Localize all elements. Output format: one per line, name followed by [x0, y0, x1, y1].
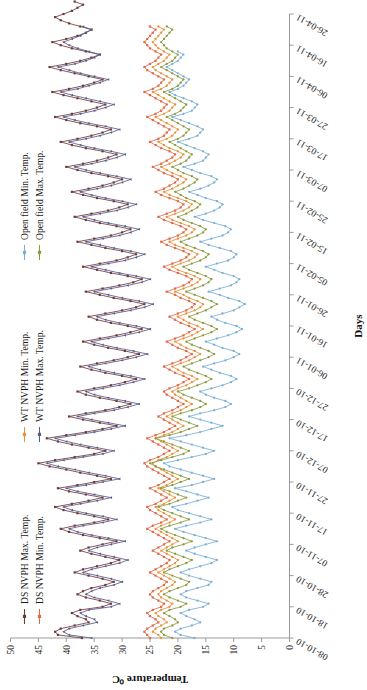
data-point	[51, 41, 53, 43]
data-point	[59, 141, 61, 143]
data-point	[171, 390, 173, 392]
legend-label: WT NVPH Max. Temp.	[33, 330, 44, 422]
data-point	[157, 415, 159, 417]
data-point	[160, 596, 162, 598]
data-point	[154, 437, 156, 439]
data-point	[173, 631, 175, 633]
data-point	[157, 25, 159, 27]
data-point	[165, 291, 167, 293]
data-point	[162, 266, 164, 268]
legend-swatch-marker	[37, 433, 40, 436]
data-point	[179, 612, 181, 614]
data-point	[67, 528, 70, 531]
data-point	[160, 66, 162, 68]
data-point	[157, 615, 159, 617]
legend-item[interactable]: WT NVPH Max. Temp.	[33, 330, 44, 442]
data-point	[165, 131, 167, 133]
legend-swatch-marker	[22, 251, 25, 254]
data-point	[154, 191, 156, 193]
data-point	[157, 509, 159, 511]
data-point	[193, 216, 195, 218]
data-point	[54, 631, 56, 633]
data-point	[173, 487, 175, 489]
data-point	[165, 35, 167, 37]
data-point	[73, 571, 75, 573]
data-point	[201, 365, 203, 367]
data-point	[157, 571, 159, 573]
data-point	[157, 57, 159, 59]
legend-item[interactable]: Open field Max. Temp.	[33, 151, 44, 260]
data-point	[182, 266, 184, 268]
data-point	[171, 106, 173, 108]
legend-item[interactable]: DS NVPH Min. Temp.	[33, 516, 44, 624]
series-line	[38, 2, 144, 638]
data-point	[157, 47, 159, 49]
data-point	[146, 44, 148, 46]
data-point	[56, 634, 58, 636]
data-point	[171, 415, 173, 417]
data-point	[160, 528, 162, 530]
x-tick-label: 27-11-10	[294, 480, 329, 506]
data-point	[187, 315, 189, 317]
data-point	[154, 38, 156, 40]
x-tick-label: 07-12-10	[294, 449, 329, 475]
y-tick-label: 0	[284, 645, 294, 650]
data-point	[185, 81, 187, 83]
data-point	[148, 462, 150, 464]
x-tick-label: 17-12-10	[294, 418, 329, 444]
data-point	[173, 291, 175, 293]
data-point	[65, 166, 67, 168]
legend-label: WT NVPH Min. Temp.	[18, 332, 29, 422]
legend-item[interactable]: Open field Min. Temp.	[18, 152, 29, 260]
data-point	[165, 25, 167, 27]
data-point	[157, 487, 159, 489]
y-tick-label: 40	[61, 645, 71, 655]
data-point	[168, 91, 170, 93]
data-point	[176, 315, 178, 317]
data-point	[162, 365, 164, 367]
data-point	[76, 593, 78, 595]
data-point	[148, 25, 150, 27]
data-point	[185, 131, 187, 133]
data-point	[165, 216, 167, 218]
x-tick-label: 27-03-11	[294, 106, 329, 132]
data-point	[76, 390, 78, 392]
y-tick-label: 35	[89, 645, 99, 655]
legend-item[interactable]: WT NVPH Min. Temp.	[18, 332, 29, 442]
data-point	[59, 528, 61, 530]
x-tick-label: 07-11-10	[294, 543, 329, 569]
data-point	[210, 315, 212, 317]
series-line	[150, 26, 217, 638]
data-point	[160, 549, 162, 551]
legend-label: DS NVPH Max. Temp.	[18, 515, 29, 605]
data-point	[148, 487, 150, 489]
x-tick-label: 07-03-11	[294, 168, 329, 194]
x-tick-label: 08-10-10	[294, 636, 329, 662]
data-point	[171, 116, 173, 118]
x-tick-label: 16-01-11	[294, 324, 329, 350]
x-tick-label: 17-03-11	[294, 137, 329, 163]
data-point	[148, 615, 150, 617]
data-point	[176, 216, 178, 218]
y-tick-label: 5	[257, 645, 267, 650]
data-point	[160, 631, 162, 633]
data-point	[179, 57, 181, 59]
data-point	[151, 550, 153, 552]
data-point	[151, 41, 153, 43]
data-point	[154, 612, 156, 614]
legend-item[interactable]: DS NVPH Max. Temp.	[18, 515, 29, 625]
data-point	[151, 590, 153, 592]
data-point	[54, 116, 56, 118]
data-point	[160, 590, 162, 592]
data-point	[146, 465, 148, 467]
data-point	[187, 156, 189, 158]
data-point	[148, 35, 150, 37]
data-point	[162, 462, 164, 464]
data-point	[204, 340, 206, 342]
legend-label: Open field Min. Temp.	[18, 152, 29, 240]
data-point	[151, 596, 153, 598]
data-point	[148, 509, 150, 511]
data-point	[146, 116, 148, 118]
data-point	[176, 50, 178, 52]
data-point	[162, 44, 164, 46]
